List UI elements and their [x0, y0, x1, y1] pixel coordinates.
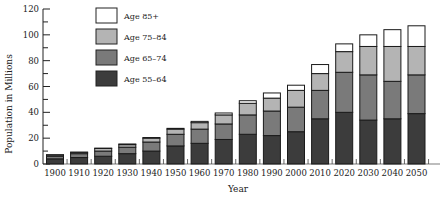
- bars: [47, 26, 426, 164]
- y-axis-label: Population in Millions: [4, 54, 14, 154]
- bar-2030: [360, 35, 377, 164]
- x-tick-label: 1920: [92, 168, 114, 178]
- bar-1920: [95, 148, 112, 164]
- x-tick-label: 1900: [44, 168, 66, 178]
- x-tick-label: 2030: [357, 168, 379, 178]
- x-tick-label: 1930: [116, 168, 138, 178]
- bar-1990: [263, 93, 280, 164]
- legend-swatch: [96, 71, 117, 86]
- x-tick-label: 1950: [165, 168, 187, 178]
- bar-2000: [288, 85, 305, 164]
- legend-label: Age 85+: [123, 12, 159, 21]
- legend-swatch: [96, 50, 117, 65]
- stacked-bar-chart: 020406080100120 190019101920193019401950…: [0, 0, 442, 208]
- x-tick-label: 1970: [213, 168, 235, 178]
- bar-2050: [408, 26, 425, 164]
- legend-swatch: [96, 29, 117, 44]
- x-tick-label: 2050: [406, 168, 428, 178]
- x-tick-label: 1940: [141, 168, 163, 178]
- y-tick-label: 100: [23, 30, 39, 40]
- bar-2010: [312, 65, 329, 164]
- x-tick-label: 2000: [285, 168, 307, 178]
- bar-1980: [239, 101, 256, 164]
- y-tick-label: 40: [28, 107, 39, 117]
- bar-1910: [71, 152, 88, 164]
- bar-1900: [47, 155, 64, 164]
- bar-2040: [384, 30, 401, 164]
- legend-swatch: [96, 8, 117, 23]
- bar-1970: [215, 113, 232, 164]
- bar-1960: [191, 121, 208, 164]
- legend-label: Age 55–64: [123, 75, 167, 84]
- bar-2020: [336, 44, 353, 164]
- y-tick-label: 120: [23, 4, 39, 14]
- x-tick-label: 1910: [68, 168, 90, 178]
- x-tick-label: 1990: [261, 168, 283, 178]
- legend-label: Age 75–84: [123, 33, 167, 42]
- y-tick-label: 80: [28, 56, 39, 66]
- x-axis-label: Year: [227, 184, 249, 194]
- x-tick-label: 2040: [382, 168, 404, 178]
- y-tick-label: 60: [28, 82, 39, 92]
- y-tick-label: 20: [28, 133, 39, 143]
- bar-1940: [143, 138, 160, 164]
- x-tick-label: 2010: [309, 168, 331, 178]
- bar-1930: [119, 144, 136, 164]
- x-tick-label: 2020: [333, 168, 355, 178]
- y-tick-label: 0: [34, 159, 39, 169]
- y-axis: 020406080100120: [23, 4, 50, 169]
- legend: Age 85+Age 75–84Age 65–74Age 55–64: [96, 8, 167, 86]
- legend-label: Age 65–74: [123, 54, 167, 63]
- x-tick-label: 1980: [237, 168, 259, 178]
- x-tick-label: 1960: [189, 168, 211, 178]
- bar-1950: [167, 128, 184, 164]
